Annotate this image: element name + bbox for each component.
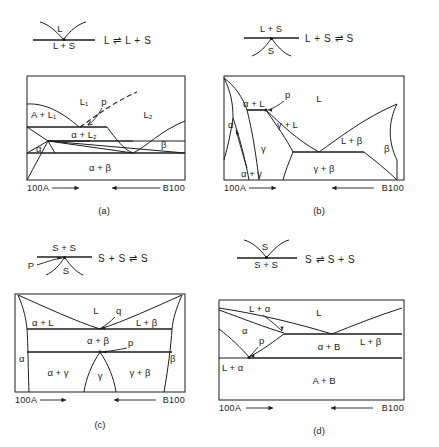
panel-c-diagram: L q α + L L + β α + β p α β α + γ γ γ + … bbox=[15, 294, 185, 405]
panel-d-axis-right: B100 bbox=[382, 403, 404, 413]
panel-a-inset-bottom-label: L + S bbox=[53, 40, 75, 51]
panel-c-label-gamma-plus-beta: γ + β bbox=[129, 367, 151, 378]
panel-b-svg: L + S S L + S ⇌ S bbox=[219, 0, 439, 224]
phase-diagram-figure: L L + S L ⇌ L + S bbox=[0, 0, 439, 447]
panel-c-label-alpha: α bbox=[19, 353, 25, 364]
panel-a-label-beta: β bbox=[161, 139, 167, 150]
panel-c-inset-top-label: S + S bbox=[52, 242, 76, 253]
panel-a-label-A-plus-L1: A + L₁ bbox=[31, 109, 56, 120]
panel-d-label-A-plus-B: A + B bbox=[313, 375, 336, 386]
panel-b-label-alpha-plus-L: α + L bbox=[243, 98, 265, 109]
panel-b-label-alpha: α bbox=[228, 119, 234, 130]
panel-b: L + S S L + S ⇌ S bbox=[219, 0, 439, 224]
panel-c-inset-equation: S + S ⇌ S bbox=[98, 253, 148, 264]
panel-a-label-L2: L₂ bbox=[144, 109, 153, 120]
panel-a-inset-equation: L ⇌ L + S bbox=[104, 35, 151, 46]
panel-d-inset-equation: S ⇌ S + S bbox=[305, 254, 355, 265]
panel-b-inset: L + S S L + S ⇌ S bbox=[244, 23, 354, 56]
panel-a-label-alpha-plus-L2: α + L₂ bbox=[71, 129, 97, 140]
panel-a-label-L1: L₁ bbox=[80, 96, 89, 107]
panel-b-label-gamma-plus-beta: γ + β bbox=[313, 163, 335, 174]
panel-c-label-L: L bbox=[93, 305, 98, 316]
panel-d-inset-bottom-label: S + S bbox=[254, 259, 278, 270]
panel-c-axis-right: B100 bbox=[163, 395, 185, 405]
panel-a-inset: L L + S L ⇌ L + S bbox=[33, 22, 151, 51]
panel-b-label-gamma-plus-L: γ + L bbox=[277, 119, 298, 130]
panel-d-diagram: L + α L α p L + β α + B L + α A + B 100A… bbox=[219, 300, 404, 413]
panel-c: S + S S P S + S ⇌ S bbox=[0, 224, 220, 447]
panel-b-axis-left: 100A bbox=[224, 183, 246, 193]
panel-b-caption: (b) bbox=[313, 205, 325, 216]
panel-c-label-beta: β bbox=[170, 353, 176, 364]
panel-c-label-gamma: γ bbox=[98, 370, 103, 381]
panel-c-label-alpha-plus-gamma: α + γ bbox=[47, 367, 68, 378]
panel-c-label-L-plus-beta: L + β bbox=[136, 317, 158, 328]
panel-c-inset: S + S S P S + S ⇌ S bbox=[28, 242, 149, 276]
panel-c-inset-point-label: P bbox=[28, 260, 34, 271]
panel-d-label-L-plus-alpha-left: L + α bbox=[222, 362, 244, 373]
panel-c-label-alpha-plus-beta: α + β bbox=[87, 335, 109, 346]
panel-b-label-beta: β bbox=[384, 143, 390, 154]
panel-b-label-L: L bbox=[316, 93, 321, 104]
panel-a-axis-left: 100A bbox=[27, 183, 49, 193]
panel-d-inset-top-label: S bbox=[262, 241, 268, 252]
panel-d-inset: S S + S S ⇌ S + S bbox=[237, 240, 355, 270]
panel-b-label-L-plus-beta: L + β bbox=[341, 135, 363, 146]
panel-d-label-alpha-plus-B: α + B bbox=[318, 341, 341, 352]
panel-b-label-p: p bbox=[285, 89, 290, 100]
panel-c-label-q: q bbox=[116, 305, 121, 316]
panel-b-inset-bottom-label: S bbox=[268, 45, 274, 56]
panel-d-svg: S S + S S ⇌ S + S bbox=[219, 224, 439, 447]
panel-c-svg: S + S S P S + S ⇌ S bbox=[0, 224, 220, 447]
panel-b-label-alpha-plus-gamma: α + γ bbox=[241, 168, 262, 179]
panel-d-axis-left: 100A bbox=[219, 403, 241, 413]
panel-c-inset-bottom-label: S bbox=[63, 265, 69, 276]
panel-d-label-alpha: α bbox=[242, 325, 248, 336]
panel-b-label-gamma: γ bbox=[261, 143, 266, 154]
panel-a-label-alpha-plus-beta: α + β bbox=[89, 162, 111, 173]
panel-d-label-p: p bbox=[259, 335, 264, 346]
panel-a-inset-top-label: L bbox=[57, 23, 62, 34]
panel-a-label-p: p bbox=[101, 96, 106, 107]
panel-b-diagram: α + L p L α γ + L L + β β γ α + γ γ + β … bbox=[224, 76, 404, 193]
panel-a-axis-right: B100 bbox=[163, 183, 185, 193]
panel-a: L L + S L ⇌ L + S bbox=[0, 0, 220, 224]
panel-a-caption: (a) bbox=[98, 205, 110, 216]
panel-b-inset-top-label: L + S bbox=[260, 23, 282, 34]
panel-c-label-p: p bbox=[128, 337, 133, 348]
panel-a-diagram: A + L₁ L₁ L₂ p α + L₂ α β α + β 100A B10… bbox=[27, 76, 185, 193]
panel-d: S S + S S ⇌ S + S bbox=[219, 224, 439, 447]
panel-b-axis-right: B100 bbox=[382, 183, 404, 193]
panel-d-caption: (d) bbox=[313, 425, 325, 436]
panel-a-svg: L L + S L ⇌ L + S bbox=[0, 0, 220, 224]
panel-a-label-alpha: α bbox=[36, 143, 42, 154]
panel-b-inset-equation: L + S ⇌ S bbox=[305, 33, 354, 44]
panel-c-caption: (c) bbox=[94, 419, 105, 430]
panel-d-label-L-plus-beta: L + β bbox=[360, 336, 382, 347]
panel-c-label-alpha-plus-L: α + L bbox=[32, 317, 54, 328]
panel-c-axis-left: 100A bbox=[15, 395, 37, 405]
panel-d-label-L-plus-alpha-top: L + α bbox=[249, 303, 271, 314]
panel-d-label-L: L bbox=[316, 307, 321, 318]
